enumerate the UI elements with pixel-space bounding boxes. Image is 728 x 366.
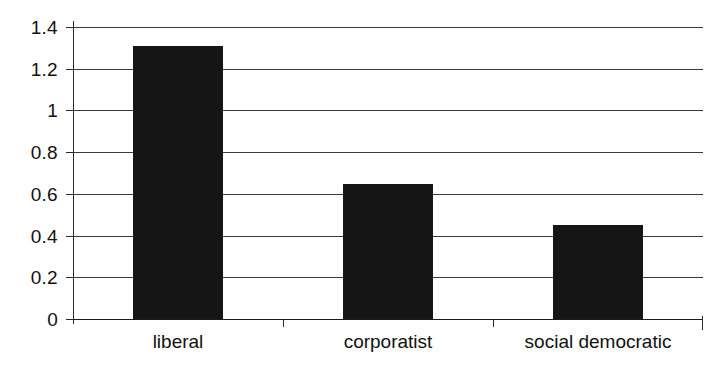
x-axis-right-cap [702,316,703,330]
y-axis-tick-mark [66,110,74,111]
y-axis-tick-label: 1 [0,101,58,120]
x-axis-tick-mark [283,320,284,327]
y-axis-tick-label: 0.2 [0,268,58,287]
y-axis-tick-label: 0 [0,310,58,329]
x-axis-tick-mark [493,320,494,327]
y-axis-tick-mark [66,277,74,278]
bar [133,46,223,319]
plot-area [73,27,703,319]
y-axis-tick-label: 1.4 [0,18,58,37]
y-axis-labels: 00.20.40.60.811.21.4 [0,0,58,366]
x-axis-labels: liberalcorporatistsocial democratic [73,330,703,360]
y-axis-tick-mark [66,152,74,153]
x-axis-category-label: corporatist [344,330,433,354]
x-axis-line [73,319,703,320]
bar [553,225,643,319]
y-axis-tick-mark [66,236,74,237]
y-axis-tick-label: 0.6 [0,184,58,203]
bar-chart: 00.20.40.60.811.21.4 liberalcorporatists… [0,0,728,366]
y-axis-tick-label: 0.8 [0,143,58,162]
y-axis-tick-mark [66,69,74,70]
x-axis-category-label: liberal [153,330,204,354]
gridline [73,27,703,28]
bar [343,184,433,319]
y-axis-tick-mark [66,194,74,195]
y-axis-tick-mark [66,27,74,28]
y-axis-tick-label: 0.4 [0,226,58,245]
x-axis-category-label: social democratic [525,330,672,354]
y-axis-tick-mark [66,319,74,320]
y-axis-tick-label: 1.2 [0,59,58,78]
